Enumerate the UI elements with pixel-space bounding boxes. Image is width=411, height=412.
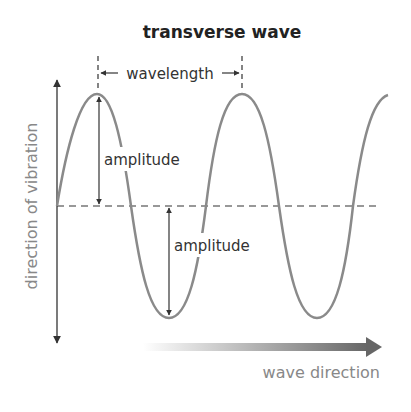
amplitude-label-lower: amplitude	[174, 237, 250, 255]
wave-direction-arrow-shaft	[143, 343, 368, 351]
transverse-wave-diagram: transverse wave direction of vibration w…	[0, 0, 411, 412]
vibration-axis-label: direction of vibration	[22, 123, 41, 290]
wavelength-label: wavelength	[126, 65, 213, 83]
diagram-title: transverse wave	[143, 22, 302, 42]
wave-direction-arrowhead	[366, 337, 382, 357]
amplitude-label-upper: amplitude	[104, 151, 180, 169]
wave-direction-label: wave direction	[263, 363, 380, 382]
